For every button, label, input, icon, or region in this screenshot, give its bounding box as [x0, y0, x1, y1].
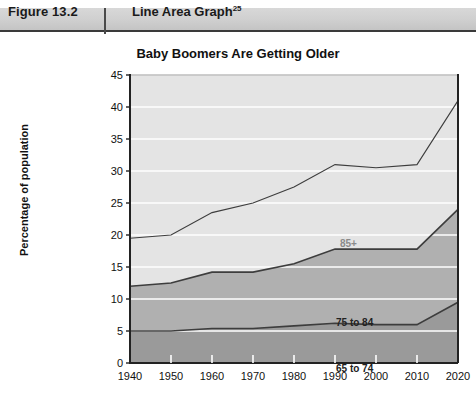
y-tick-label: 30 [111, 165, 123, 177]
y-tick-label: 5 [117, 325, 123, 337]
y-tick-label: 45 [111, 69, 123, 81]
series-label-85-plus: 85+ [340, 238, 357, 249]
y-tick-label: 25 [111, 197, 123, 209]
x-tick-label: 2020 [446, 370, 470, 382]
x-tick-label: 1970 [241, 370, 265, 382]
x-tick-label: 1950 [159, 370, 183, 382]
y-tick-label: 0 [117, 357, 123, 369]
y-tick-label: 35 [111, 133, 123, 145]
x-tick-label: 1940 [118, 370, 142, 382]
y-tick-label: 20 [111, 229, 123, 241]
figure-title-text: Line Area Graph [132, 4, 233, 19]
x-tick-label: 1960 [200, 370, 224, 382]
chart-container: Baby Boomers Are Getting Older Percentag… [0, 34, 476, 403]
series-label-65-to-74: 65 to 74 [336, 363, 374, 374]
figure-number: Figure 13.2 [8, 4, 78, 19]
y-tick-label: 15 [111, 261, 123, 273]
figure-title: Line Area Graph25 [132, 4, 242, 19]
x-tick-labels: 194019501960197019801990200020102020 [118, 355, 470, 382]
y-tick-label: 10 [111, 293, 123, 305]
x-tick-label: 1980 [282, 370, 306, 382]
series-label-75-to-84: 75 to 84 [336, 317, 374, 328]
y-tick-label: 40 [111, 101, 123, 113]
figure-title-footnote: 25 [233, 4, 242, 13]
y-tick-labels: 051015202530354045 [111, 69, 130, 369]
stacked-area-chart: 051015202530354045 194019501960197019801… [0, 34, 476, 403]
x-tick-label: 2010 [405, 370, 429, 382]
